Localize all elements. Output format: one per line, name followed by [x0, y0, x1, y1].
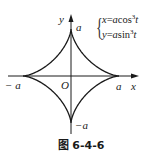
neg-y-tick-label: −a — [75, 120, 88, 131]
x-axis-label: x — [131, 81, 136, 92]
astroid-figure: y a − a O a x −a { x=acos3t y=asin3t 图 6… — [0, 0, 162, 156]
y-axis-label: y — [59, 14, 64, 25]
pos-x-tick-label: a — [116, 81, 122, 92]
equation-y: y=asin3t — [102, 30, 137, 41]
origin-label: O — [61, 80, 69, 91]
pos-y-tick-label: a — [76, 22, 82, 33]
figure-caption: 图 6-4-6 — [0, 136, 162, 152]
neg-x-tick-label: − a — [5, 80, 21, 91]
y-axis-arrow-icon — [69, 14, 74, 22]
x-axis-arrow-icon — [131, 74, 139, 79]
equation-x: x=acos3t — [102, 15, 138, 26]
